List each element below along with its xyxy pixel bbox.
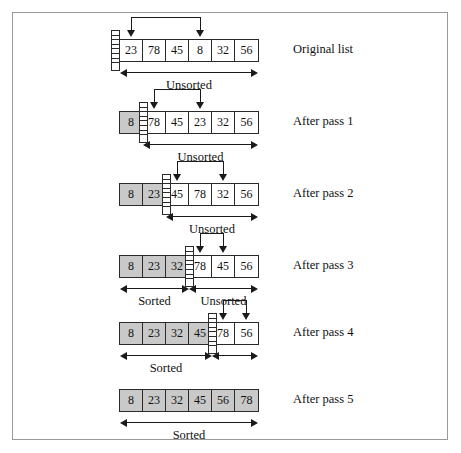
span-label-sorted: Sorted (120, 428, 258, 443)
bracket-leg (154, 89, 155, 102)
wall-brick (163, 207, 170, 212)
pass-label-original: Original list (293, 42, 353, 57)
bracket-leg (200, 233, 201, 246)
bracket-leg (223, 300, 224, 313)
array-cell: 8 (120, 323, 143, 344)
span-arrow-unsorted (120, 69, 258, 77)
array-cell: 78 (189, 184, 212, 205)
array-cell: 56 (235, 256, 258, 277)
bracket-leg (200, 17, 201, 30)
bracket-leg (177, 161, 178, 174)
sorted-boundary-wall (208, 313, 217, 354)
span-line (126, 355, 206, 356)
array-pass5: 82332455678 (119, 389, 259, 412)
pass-label-pass3: After pass 3 (293, 258, 353, 273)
span-arrow-unsorted (212, 352, 258, 360)
span-line (126, 422, 252, 423)
array-cell: 45 (189, 390, 212, 411)
span-label-unsorted: Unsorted (143, 150, 258, 165)
pass-label-pass2: After pass 2 (293, 186, 353, 201)
bracket-leg (246, 300, 247, 313)
sorted-boundary-wall (185, 246, 194, 287)
span-label-unsorted: Unsorted (166, 222, 258, 237)
arrow-head-down (242, 313, 250, 320)
arrow-head-right (251, 141, 258, 149)
arrow-head-down (127, 30, 135, 37)
sorted-boundary-wall (139, 102, 148, 143)
bracket-horizontal (154, 89, 202, 90)
arrow-head-down (219, 174, 227, 181)
bracket-horizontal (200, 233, 225, 234)
array-cell: 8 (120, 390, 143, 411)
arrow-head-down (196, 30, 204, 37)
bracket-leg (200, 89, 201, 102)
span-line (126, 288, 183, 289)
span-line (172, 216, 252, 217)
array-cell: 32 (212, 40, 235, 61)
array-original: 23784583256 (119, 39, 259, 62)
wall-brick (186, 279, 193, 284)
array-cell: 56 (235, 184, 258, 205)
arrow-head-left (120, 352, 127, 360)
array-cell: 8 (189, 40, 212, 61)
bracket-horizontal (223, 300, 248, 301)
span-arrow-sorted (120, 285, 189, 293)
arrow-head-right (251, 285, 258, 293)
span-line (126, 72, 252, 73)
array-cell: 23 (143, 256, 166, 277)
figure-frame: 23784583256UnsortedOriginal list87845233… (12, 12, 448, 440)
array-cell: 45 (166, 112, 189, 133)
span-line (218, 355, 252, 356)
arrow-head-down (173, 174, 181, 181)
span-label-unsorted: Unsorted (120, 78, 258, 93)
array-cell: 8 (120, 256, 143, 277)
span-line (149, 144, 252, 145)
array-cell: 32 (212, 184, 235, 205)
arrow-head-down (196, 246, 204, 253)
arrow-head-left (120, 69, 127, 77)
pass-label-pass4: After pass 4 (293, 325, 353, 340)
arrow-head-down (219, 246, 227, 253)
array-cell: 45 (166, 40, 189, 61)
span-line (195, 288, 252, 289)
span-arrow-sorted (120, 419, 258, 427)
arrow-head-right (251, 213, 258, 221)
arrow-head-right (251, 419, 258, 427)
arrow-head-right (251, 352, 258, 360)
array-cell: 23 (189, 112, 212, 133)
span-arrow-unsorted (143, 141, 258, 149)
array-cell: 23 (143, 390, 166, 411)
sorted-boundary-wall (162, 174, 171, 215)
array-cell: 32 (166, 390, 189, 411)
bracket-leg (131, 17, 132, 30)
wall-brick (112, 63, 119, 68)
array-cell: 45 (212, 256, 235, 277)
array-cell: 23 (143, 323, 166, 344)
bracket-horizontal (131, 17, 202, 18)
array-pass2: 82345783256 (119, 183, 259, 206)
pass-label-pass5: After pass 5 (293, 392, 353, 407)
array-pass4: 82332457856 (119, 322, 259, 345)
array-cell: 56 (235, 40, 258, 61)
array-cell: 56 (212, 390, 235, 411)
bracket-horizontal (177, 161, 225, 162)
sorted-boundary-wall (111, 30, 120, 71)
span-arrow-unsorted (166, 213, 258, 221)
arrow-head-left (120, 285, 127, 293)
array-cell: 78 (143, 40, 166, 61)
array-cell: 56 (235, 112, 258, 133)
arrow-head-left (120, 419, 127, 427)
span-label-sorted: Sorted (120, 361, 212, 376)
span-label-sorted: Sorted (120, 294, 189, 309)
array-cell: 78 (235, 390, 258, 411)
arrow-head-down (150, 102, 158, 109)
arrow-head-down (196, 102, 204, 109)
array-cell: 32 (166, 323, 189, 344)
array-cell: 32 (212, 112, 235, 133)
span-arrow-sorted (120, 352, 212, 360)
bracket-leg (223, 233, 224, 246)
arrow-head-down (219, 313, 227, 320)
pass-label-pass1: After pass 1 (293, 114, 353, 129)
array-cell: 56 (235, 323, 258, 344)
wall-brick (140, 135, 147, 140)
